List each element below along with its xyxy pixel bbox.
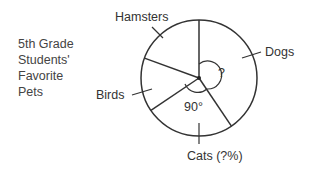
pie-chart: Hamsters Dogs Birds Cats (?%) 90° ? [0,0,312,171]
slice-divider-1 [144,58,199,78]
label-birds: Birds [96,88,124,102]
label-hamsters: Hamsters [115,10,168,24]
pie-center [197,76,201,80]
hamsters-leader [152,27,163,38]
cats-angle-label: 90° [184,100,203,114]
slice-divider-3 [199,78,231,126]
label-cats: Cats (?%) [187,149,243,163]
label-dogs: Dogs [265,45,294,59]
dogs-angle-label: ? [218,66,225,80]
